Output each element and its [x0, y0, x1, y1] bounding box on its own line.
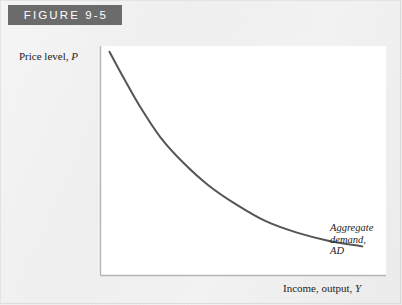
x-axis-label-text: Income, output, [283, 282, 352, 294]
x-axis-label: Income, output, Y [283, 282, 361, 294]
curve-annotation: Aggregate demand, AD [330, 222, 373, 257]
curve-annotation-line-2: demand, [330, 234, 373, 246]
curve-annotation-line-3: AD [330, 245, 373, 257]
y-axis-label: Price level, P [19, 50, 78, 62]
figure-page: FIGURE 9-5 Price level, P Income, output… [0, 0, 402, 305]
x-axis-label-variable: Y [355, 282, 361, 294]
curve-annotation-line-1: Aggregate [330, 222, 373, 234]
chart-canvas [0, 0, 402, 305]
aggregate-demand-curve [110, 52, 363, 247]
y-axis-label-text: Price level, [19, 50, 68, 62]
y-axis-label-variable: P [71, 50, 78, 62]
